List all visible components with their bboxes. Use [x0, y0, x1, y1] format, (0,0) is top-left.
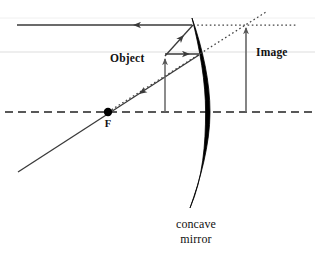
ray-diagram-canvas: Object Image F concave mirror — [0, 0, 315, 256]
concave-mirror — [190, 18, 210, 208]
focal-point-label: F — [105, 118, 111, 129]
image-label: Image — [256, 46, 288, 59]
object-label: Object — [110, 52, 144, 65]
focal-point-dot — [104, 108, 112, 116]
mirror-label-line1: concave — [176, 217, 216, 231]
mirror-label-line2: mirror — [180, 232, 211, 246]
object-to-mirror-top-ray — [165, 25, 193, 56]
concave-mirror-diagram: Object Image F concave mirror — [0, 0, 315, 256]
